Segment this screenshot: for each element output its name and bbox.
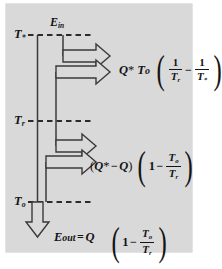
- label-t0-symbol: T: [14, 194, 22, 208]
- label-tstar-subscript: *: [22, 33, 26, 42]
- label-tr-subscript: r: [22, 119, 25, 128]
- formula-exergy-out-carnot-factor: ( 1 − To Tr ): [109, 226, 169, 259]
- arrow-right-lowest: [46, 150, 96, 174]
- formula2-q: Q: [119, 159, 128, 174]
- label-ein-subscript: in: [58, 21, 64, 30]
- formula1-numerator-one: 1: [171, 57, 181, 69]
- label-t0-subscript: o: [22, 200, 26, 209]
- formula1-fraction-one-over-tstar: 1 T*: [195, 57, 198, 84]
- formula3-paren-close: ): [158, 226, 166, 259]
- formula-exergy-out-left: Eout = Q: [54, 230, 94, 245]
- formula2-fraction-t0-over-tr: To Tr: [166, 152, 180, 181]
- diagram-lines-layer: [6, 4, 192, 252]
- formula2-qstar-superscript: *: [103, 159, 109, 174]
- formula1-t0-subscript: o: [145, 65, 150, 76]
- label-energy-in: Ein: [50, 16, 64, 30]
- formula3-eout-subscript: out: [62, 232, 75, 243]
- label-tr-symbol: T: [14, 113, 22, 127]
- formula1-denominator-tstar: T*: [195, 70, 198, 84]
- formula1-t0: T: [137, 63, 145, 78]
- formula3-equals-operator: =: [77, 230, 84, 245]
- formula1-denominator-tr: Tr: [169, 70, 182, 84]
- formula3-one: 1: [122, 235, 128, 250]
- formula2-paren-close: ): [185, 150, 193, 183]
- arrow-down-output: [26, 202, 49, 237]
- formula2-paren-close-small: ): [128, 159, 132, 174]
- formula1-fraction-one-over-tr: 1 Tr: [169, 57, 182, 84]
- formula3-eout-symbol: E: [54, 230, 62, 245]
- label-temperature-source: T*: [14, 28, 26, 42]
- formula2-minus-operator-2: −: [157, 159, 164, 174]
- formula1-minus-operator: −: [185, 63, 192, 78]
- formula3-minus-operator: −: [130, 235, 137, 250]
- formula3-q: Q: [85, 230, 94, 245]
- branch-connector-lines: [46, 35, 63, 202]
- formula2-paren-open: (: [138, 150, 146, 183]
- hollow-block-arrows: [26, 44, 110, 237]
- formula1-numerator-one-2: 1: [197, 57, 198, 69]
- formula-exergy-destruction-middle: ( Q* − Q ) ( 1 − To Tr ): [90, 150, 195, 183]
- label-temperature-ambient: To: [14, 195, 26, 209]
- formula2-one: 1: [149, 159, 155, 174]
- exergy-flow-diagram: T* Tr To Ein Q* To ( 1 Tr − 1 T* ) ( Q* …: [6, 4, 192, 252]
- formula3-numerator-t0: To: [140, 228, 154, 242]
- label-ein-symbol: E: [50, 15, 58, 29]
- label-tstar-symbol: T: [14, 27, 22, 41]
- formula3-denominator-tr: Tr: [140, 243, 153, 257]
- formula3-paren-open: (: [112, 226, 120, 259]
- formula2-minus-operator: −: [111, 159, 118, 174]
- formula2-denominator-tr: Tr: [167, 167, 180, 181]
- label-temperature-reservoir: Tr: [14, 114, 25, 128]
- formula-exergy-destruction-upper: Q* To ( 1 Tr − 1 T* ): [119, 54, 198, 87]
- formula2-numerator-t0: To: [166, 152, 180, 166]
- formula1-paren-open: (: [156, 54, 164, 87]
- arrow-right-upper: [63, 44, 110, 68]
- formula1-qstar-superscript: *: [128, 63, 134, 78]
- formula1-qstar: Q: [119, 63, 128, 78]
- formula3-fraction-t0-over-tr: To Tr: [140, 228, 154, 257]
- formula2-qstar: Q: [94, 159, 103, 174]
